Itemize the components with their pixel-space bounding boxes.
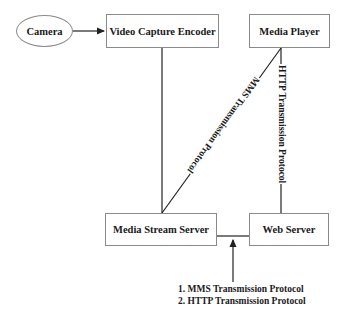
video-capture-encoder-node: Video Capture Encoder [106, 14, 219, 48]
media-player-node: Media Player [249, 14, 330, 48]
player-label: Media Player [259, 26, 319, 37]
encoder-label: Video Capture Encoder [109, 26, 215, 37]
web-server-node: Web Server [249, 213, 329, 246]
camera-label: Camera [26, 26, 62, 37]
stream-server-label: Media Stream Server [113, 224, 209, 235]
media-stream-server-node: Media Stream Server [105, 213, 217, 246]
web-server-label: Web Server [263, 224, 316, 235]
note-line-1: 1. MMS Transmission Protocol [178, 283, 306, 295]
note-line-2: 2. HTTP Transmission Protocol [178, 295, 306, 307]
http-edge-label: HTTP Transmission Protocol [277, 64, 287, 184]
protocol-note: 1. MMS Transmission Protocol 2. HTTP Tra… [178, 283, 306, 307]
camera-node: Camera [16, 15, 73, 47]
